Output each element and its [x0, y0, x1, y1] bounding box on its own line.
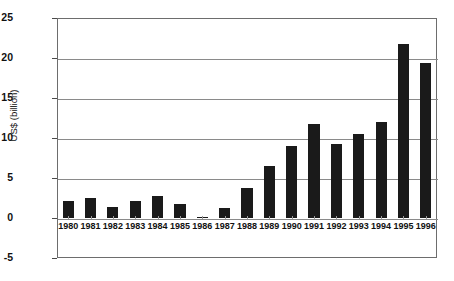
y-axis-title: US$ (billion)	[8, 56, 19, 176]
x-tick-label-1994: 1994	[370, 219, 392, 233]
y-tick-label-10: 10	[0, 132, 13, 143]
x-tick-mark-1982	[113, 216, 114, 219]
bar-1981	[85, 198, 96, 218]
x-tick-mark-1985	[180, 216, 181, 219]
bar-1990	[286, 146, 297, 218]
x-tick-mark-1981	[91, 216, 92, 219]
x-tick-label-1985: 1985	[169, 219, 191, 233]
y-tick-label-20: 20	[0, 52, 13, 63]
x-tick-mark-1995	[403, 216, 404, 219]
bar-1995	[398, 44, 409, 218]
x-tick-label-1991: 1991	[303, 219, 325, 233]
bar-1989	[264, 166, 275, 218]
bar-1984	[152, 196, 163, 218]
bar-chart: US$ (billion) 2520151050-5 1980198119821…	[0, 0, 454, 281]
x-tick-mark-1984	[158, 216, 159, 219]
x-tick-label-1993: 1993	[348, 219, 370, 233]
x-axis-labels: 1980198119821983198419851986198719881989…	[57, 219, 437, 235]
x-tick-mark-1983	[135, 216, 136, 219]
bar-1993	[353, 134, 364, 218]
x-tick-mark-1992	[336, 216, 337, 219]
bar-1991	[308, 124, 319, 218]
y-tick-label-5: 5	[0, 172, 13, 183]
x-tick-label-1984: 1984	[146, 219, 168, 233]
x-tick-label-1988: 1988	[236, 219, 258, 233]
x-tick-label-1986: 1986	[191, 219, 213, 233]
y-tick-label--5: -5	[0, 252, 13, 263]
bar-1988	[241, 188, 252, 218]
x-tick-label-1996: 1996	[415, 219, 437, 233]
x-tick-mark-1986	[202, 216, 203, 219]
x-tick-mark-1989	[269, 216, 270, 219]
x-tick-mark-1996	[426, 216, 427, 219]
x-tick-label-1980: 1980	[57, 219, 79, 233]
x-tick-mark-1987	[225, 216, 226, 219]
bar-1992	[331, 144, 342, 218]
x-tick-label-1982: 1982	[102, 219, 124, 233]
x-tick-mark-1990	[292, 216, 293, 219]
x-tick-mark-1980	[68, 216, 69, 219]
x-tick-label-1995: 1995	[392, 219, 414, 233]
y-tick-label-15: 15	[0, 92, 13, 103]
bar-1994	[376, 122, 387, 218]
x-tick-mark-1994	[381, 216, 382, 219]
x-tick-label-1987: 1987	[213, 219, 235, 233]
x-tick-mark-1988	[247, 216, 248, 219]
x-tick-label-1983: 1983	[124, 219, 146, 233]
x-tick-label-1990: 1990	[281, 219, 303, 233]
y-tick-label-0: 0	[0, 212, 13, 223]
x-tick-label-1989: 1989	[258, 219, 280, 233]
bar-1996	[420, 63, 431, 218]
y-tick-label-25: 25	[0, 12, 13, 23]
x-tick-label-1981: 1981	[79, 219, 101, 233]
x-tick-mark-1991	[314, 216, 315, 219]
x-tick-mark-1993	[359, 216, 360, 219]
x-tick-label-1992: 1992	[325, 219, 347, 233]
